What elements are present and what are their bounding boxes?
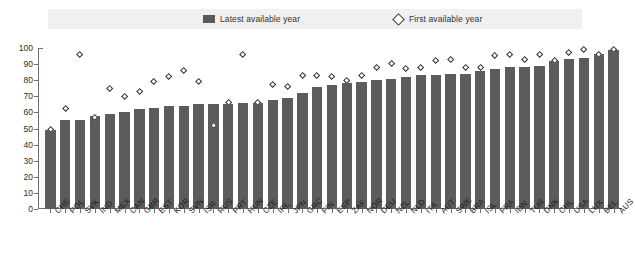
legend-item-latest[interactable]: Latest available year [203, 9, 300, 29]
bar-ind[interactable] [90, 116, 100, 209]
y-axis-tick [34, 129, 38, 130]
bar-cze[interactable] [253, 103, 263, 209]
bar-mex[interactable] [105, 114, 115, 209]
diamond-bra[interactable] [462, 63, 470, 71]
bar-esp[interactable] [327, 85, 337, 209]
bar-aut[interactable] [431, 75, 441, 209]
y-axis-labels: 0102030405060708090100 [0, 48, 33, 209]
bar-irl[interactable] [268, 100, 278, 209]
legend-item-first[interactable]: First available year [393, 9, 482, 29]
y-axis-tick-label: 40 [24, 141, 33, 149]
diamond-tur[interactable] [521, 55, 529, 63]
diamond-usa[interactable] [565, 49, 573, 57]
diamond-icon [392, 13, 405, 26]
bar-prt[interactable] [223, 104, 233, 209]
bar-chl[interactable] [549, 61, 559, 209]
bar-usa[interactable] [564, 59, 574, 209]
bar-fra[interactable] [490, 69, 500, 209]
bar-jpn[interactable] [282, 98, 292, 209]
cropped-title [0, 0, 630, 7]
bar-nld[interactable] [401, 77, 411, 209]
bar-rus[interactable] [208, 104, 218, 209]
diamond-idn[interactable] [506, 51, 514, 59]
bar-nzl[interactable] [386, 79, 396, 209]
bar-swe[interactable] [445, 74, 455, 209]
y-axis-tick [34, 145, 38, 146]
diamond-deu[interactable] [373, 63, 381, 71]
bar-fin[interactable] [312, 87, 322, 209]
bar-svk[interactable] [75, 120, 85, 209]
diamond-fra[interactable] [491, 52, 499, 60]
bar-svn[interactable] [179, 106, 189, 209]
diamond-gbr[interactable] [136, 88, 144, 96]
diamond-jpn[interactable] [284, 83, 292, 91]
diamond-aut[interactable] [432, 57, 440, 65]
diamond-nzl[interactable] [387, 60, 395, 68]
diamond-est[interactable] [150, 78, 158, 86]
y-axis-tick-label: 10 [24, 189, 33, 197]
chart-legend: Latest available year First available ye… [48, 9, 582, 29]
y-axis-tick-label: 60 [24, 108, 33, 116]
diamond-nor[interactable] [358, 72, 366, 80]
bar-idn[interactable] [505, 67, 515, 209]
bar-deu[interactable] [371, 80, 381, 209]
legend-label-latest: Latest available year [220, 14, 300, 24]
diamond-hun[interactable] [239, 51, 247, 59]
diamond-lux[interactable] [580, 46, 588, 54]
diamond-isr[interactable] [195, 78, 203, 86]
diamond-svk[interactable] [76, 51, 84, 59]
bar-grc[interactable] [297, 93, 307, 209]
diamond-kor[interactable] [165, 73, 173, 81]
y-axis-tick [34, 161, 38, 162]
bar-hun[interactable] [238, 103, 248, 209]
y-axis-tick-label: 30 [24, 157, 33, 165]
bar-nor[interactable] [356, 82, 366, 209]
bar-che[interactable] [45, 130, 55, 209]
y-axis-tick [34, 112, 38, 113]
y-axis-tick-label: 100 [19, 44, 33, 52]
bar-zaf[interactable] [342, 83, 352, 209]
y-axis-tick [34, 80, 38, 81]
diamond-ita[interactable] [417, 63, 425, 71]
bar-lux[interactable] [579, 58, 589, 209]
diamond-esp[interactable] [328, 73, 336, 81]
bar-bra[interactable] [460, 74, 470, 209]
bar-dnk[interactable] [534, 66, 544, 209]
diamond-irl[interactable] [269, 81, 277, 89]
bar-kor[interactable] [164, 106, 174, 209]
diamond-dnk[interactable] [536, 51, 544, 59]
diamond-fin[interactable] [313, 72, 321, 80]
bar-est[interactable] [149, 108, 159, 209]
y-axis-tick [34, 193, 38, 194]
diamond-pol[interactable] [61, 105, 69, 113]
y-axis-tick-label: 80 [24, 76, 33, 84]
y-axis-tick [34, 96, 38, 97]
diamond-nld[interactable] [402, 65, 410, 73]
bar-tur[interactable] [519, 67, 529, 209]
y-axis-tick-label: 20 [24, 173, 33, 181]
diamond-swe[interactable] [447, 55, 455, 63]
bar-isr[interactable] [193, 104, 203, 209]
bar-gbr[interactable] [134, 109, 144, 209]
y-axis-tick-label: 50 [24, 125, 33, 133]
legend-label-first: First available year [409, 14, 482, 24]
y-axis-tick [34, 177, 38, 178]
y-axis-tick-label: 0 [28, 205, 33, 213]
plot-area [38, 48, 622, 209]
x-axis-labels: CHEPOLSVKINDMEXCANGBRESTKORSVNISRRUSPRTH… [38, 209, 622, 266]
bar-can[interactable] [119, 112, 129, 209]
bar-isl[interactable] [475, 71, 485, 209]
diamond-grc[interactable] [299, 72, 307, 80]
y-axis-tick-label: 70 [24, 92, 33, 100]
diamond-svn[interactable] [180, 67, 188, 75]
diamond-mex[interactable] [106, 84, 114, 92]
y-axis-tick-label: 90 [24, 60, 33, 68]
y-axis-tick [34, 64, 38, 65]
bar-aus[interactable] [608, 50, 618, 209]
bar-series-group [38, 48, 622, 209]
bar-bel[interactable] [594, 54, 604, 209]
bar-swatch-icon [203, 15, 215, 23]
diamond-can[interactable] [121, 92, 129, 100]
bar-ita[interactable] [416, 75, 426, 209]
